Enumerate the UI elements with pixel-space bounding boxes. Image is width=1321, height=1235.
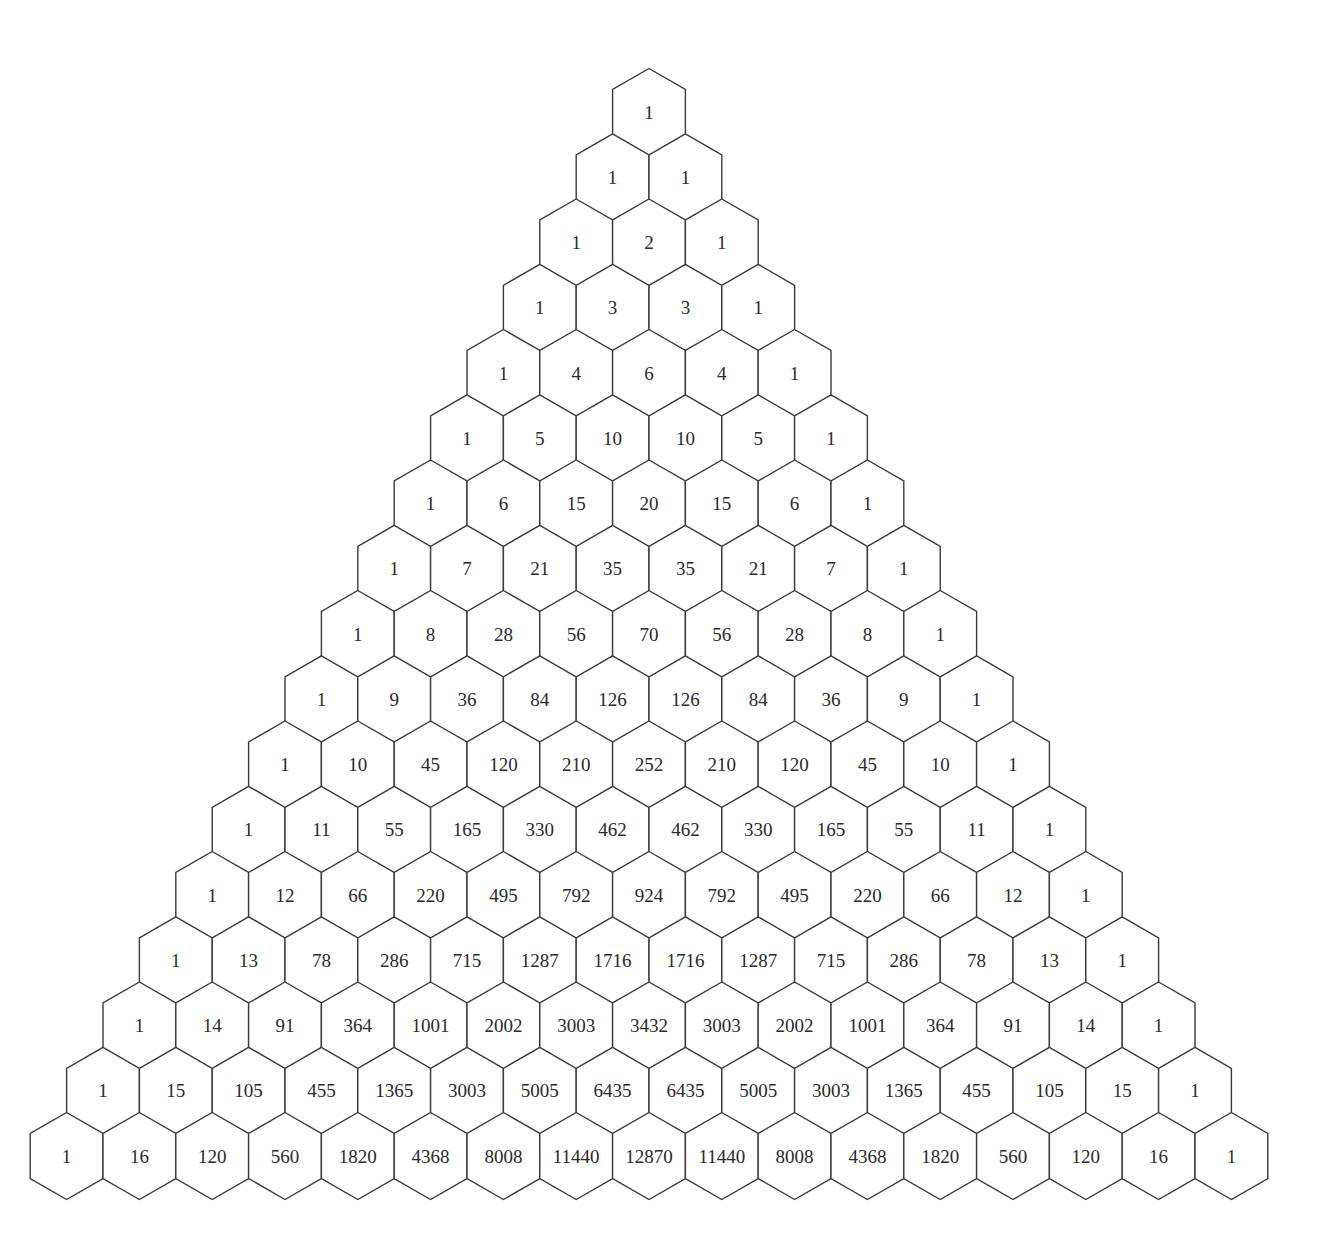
cell-value: 45 — [858, 754, 877, 775]
cell-value: 56 — [712, 624, 731, 645]
cell-value: 8008 — [776, 1146, 814, 1167]
cell-value: 1 — [207, 885, 217, 906]
cell-value: 1 — [389, 558, 399, 579]
cell-value: 78 — [967, 950, 986, 971]
cell-value: 792 — [562, 885, 591, 906]
hex-cells: 1111211331146411510105116152015611721353… — [30, 69, 1268, 1200]
cell-value: 462 — [671, 819, 700, 840]
cell-value: 462 — [598, 819, 627, 840]
cell-value: 1 — [1190, 1080, 1200, 1101]
cell-value: 1 — [608, 167, 618, 188]
cell-value: 120 — [489, 754, 518, 775]
cell-value: 3003 — [703, 1015, 741, 1036]
cell-value: 210 — [708, 754, 737, 775]
cell-value: 7 — [462, 558, 472, 579]
cell-value: 70 — [640, 624, 659, 645]
cell-value: 2 — [644, 232, 654, 253]
cell-value: 1 — [899, 558, 909, 579]
cell-value: 220 — [853, 885, 882, 906]
cell-value: 120 — [780, 754, 809, 775]
cell-value: 495 — [780, 885, 809, 906]
cell-value: 66 — [348, 885, 367, 906]
cell-value: 16 — [130, 1146, 149, 1167]
cell-value: 15 — [567, 493, 586, 514]
cell-value: 11 — [312, 819, 330, 840]
cell-value: 35 — [676, 558, 695, 579]
cell-value: 6 — [644, 363, 654, 384]
cell-value: 1 — [1045, 819, 1055, 840]
cell-value: 126 — [598, 689, 627, 710]
cell-value: 1 — [1117, 950, 1127, 971]
cell-value: 20 — [640, 493, 659, 514]
cell-value: 120 — [1072, 1146, 1101, 1167]
cell-value: 5 — [753, 428, 763, 449]
cell-value: 55 — [894, 819, 913, 840]
cell-value: 10 — [676, 428, 695, 449]
cell-value: 10 — [603, 428, 622, 449]
cell-value: 105 — [234, 1080, 263, 1101]
cell-value: 1365 — [885, 1080, 923, 1101]
cell-value: 10 — [931, 754, 950, 775]
cell-value: 4368 — [848, 1146, 886, 1167]
cell-value: 2002 — [484, 1015, 522, 1036]
cell-value: 715 — [817, 950, 846, 971]
cell-value: 91 — [1004, 1015, 1023, 1036]
cell-value: 8008 — [484, 1146, 522, 1167]
cell-value: 3003 — [812, 1080, 850, 1101]
cell-value: 330 — [744, 819, 773, 840]
cell-value: 1 — [1154, 1015, 1164, 1036]
cell-value: 220 — [416, 885, 445, 906]
cell-value: 4 — [571, 363, 581, 384]
cell-value: 28 — [494, 624, 513, 645]
cell-value: 5005 — [739, 1080, 777, 1101]
cell-value: 1 — [571, 232, 581, 253]
cell-value: 455 — [307, 1080, 336, 1101]
cell-value: 4 — [717, 363, 727, 384]
cell-value: 1 — [644, 102, 654, 123]
cell-value: 1 — [1227, 1146, 1237, 1167]
cell-value: 120 — [198, 1146, 227, 1167]
cell-value: 364 — [926, 1015, 955, 1036]
cell-value: 210 — [562, 754, 591, 775]
cell-value: 8 — [426, 624, 436, 645]
cell-value: 1365 — [375, 1080, 413, 1101]
cell-value: 6435 — [594, 1080, 632, 1101]
cell-value: 13 — [1040, 950, 1059, 971]
cell-value: 6435 — [666, 1080, 704, 1101]
cell-value: 2002 — [776, 1015, 814, 1036]
cell-value: 35 — [603, 558, 622, 579]
cell-value: 330 — [526, 819, 555, 840]
cell-value: 1 — [62, 1146, 72, 1167]
cell-value: 1 — [972, 689, 982, 710]
cell-value: 12870 — [625, 1146, 673, 1167]
cell-value: 36 — [822, 689, 841, 710]
cell-value: 286 — [890, 950, 919, 971]
cell-value: 3 — [608, 297, 618, 318]
cell-value: 252 — [635, 754, 664, 775]
cell-value: 15 — [1113, 1080, 1132, 1101]
cell-value: 1 — [499, 363, 509, 384]
cell-value: 364 — [344, 1015, 373, 1036]
cell-value: 9 — [899, 689, 909, 710]
cell-value: 84 — [530, 689, 550, 710]
cell-value: 495 — [489, 885, 518, 906]
cell-value: 1820 — [339, 1146, 377, 1167]
cell-value: 11 — [967, 819, 985, 840]
cell-value: 11440 — [698, 1146, 745, 1167]
cell-value: 36 — [458, 689, 477, 710]
cell-value: 1287 — [521, 950, 559, 971]
cell-value: 126 — [671, 689, 700, 710]
cell-value: 1001 — [848, 1015, 886, 1036]
cell-value: 5005 — [521, 1080, 559, 1101]
cell-value: 3 — [681, 297, 691, 318]
cell-value: 11440 — [553, 1146, 600, 1167]
cell-value: 1 — [863, 493, 873, 514]
cell-value: 4368 — [412, 1146, 450, 1167]
cell-value: 560 — [999, 1146, 1028, 1167]
cell-value: 45 — [421, 754, 440, 775]
cell-value: 165 — [817, 819, 846, 840]
cell-value: 3003 — [448, 1080, 486, 1101]
cell-value: 924 — [635, 885, 664, 906]
cell-value: 91 — [276, 1015, 295, 1036]
cell-value: 560 — [271, 1146, 300, 1167]
